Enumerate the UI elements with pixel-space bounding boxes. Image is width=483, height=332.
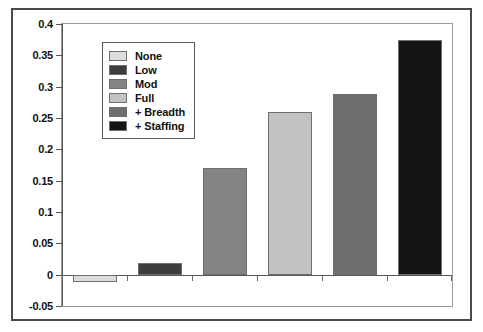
legend-item[interactable]: + Breadth [109, 105, 185, 118]
y-axis-label: 0.4 [38, 18, 53, 30]
y-axis-label: 0 [47, 269, 53, 281]
y-axis-label: 0.05 [32, 237, 53, 249]
legend-item-label: + Staffing [135, 120, 184, 132]
y-axis-label: 0.15 [32, 175, 53, 187]
legend-swatch-icon [109, 51, 127, 61]
bar-breadth[interactable] [333, 94, 377, 274]
y-axis-label: -0.05 [29, 300, 53, 312]
y-axis-label: 0.35 [32, 49, 53, 61]
plot-frame: 0.40.350.30.250.20.150.10.050-0.05 NoneL… [61, 23, 453, 307]
legend-item[interactable]: Mod [109, 77, 185, 90]
legend-swatch-icon [109, 93, 127, 103]
legend-item[interactable]: + Staffing [109, 119, 185, 132]
legend-swatch-icon [109, 121, 127, 131]
legend-swatch-icon [109, 79, 127, 89]
y-axis-tick [56, 306, 62, 307]
bar-low[interactable] [138, 263, 182, 274]
y-axis-label: 0.25 [32, 112, 53, 124]
legend-item-label: Full [135, 92, 154, 104]
y-axis-label: 0.1 [38, 206, 53, 218]
bar-full[interactable] [268, 112, 312, 274]
bar-staffing[interactable] [398, 40, 442, 275]
y-axis-label: 0.3 [38, 81, 53, 93]
legend-swatch-icon [109, 65, 127, 75]
legend-swatch-icon [109, 107, 127, 117]
legend-item[interactable]: Low [109, 63, 185, 76]
figure-outer-frame: 0.40.350.30.250.20.150.10.050-0.05 NoneL… [11, 8, 472, 321]
legend-item[interactable]: None [109, 49, 185, 62]
chart-legend: NoneLowModFull+ Breadth+ Staffing [102, 42, 195, 139]
legend-item-label: + Breadth [135, 106, 185, 118]
y-axis-label: 0.2 [38, 143, 53, 155]
legend-item[interactable]: Full [109, 91, 185, 104]
legend-item-label: None [135, 50, 162, 62]
legend-item-label: Mod [135, 78, 157, 90]
bar-none[interactable] [73, 275, 117, 283]
bar-mod[interactable] [203, 168, 247, 275]
plot-area: 0.40.350.30.250.20.150.10.050-0.05 NoneL… [62, 24, 452, 306]
legend-item-label: Low [135, 64, 157, 76]
